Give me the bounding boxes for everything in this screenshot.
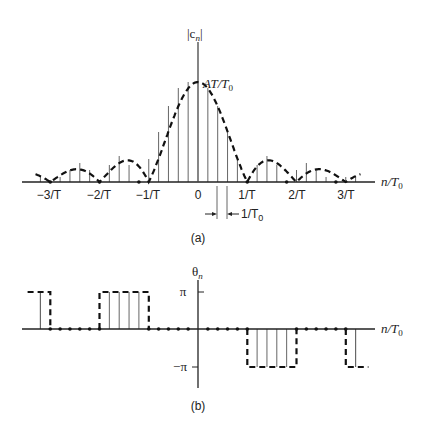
x-tick-labels: −3/T −2/T −1/T 0 1/T 2/T 3/T	[37, 188, 356, 202]
figure-b: θn π −π n/T0 (b)	[22, 264, 403, 413]
theta-label: θn	[192, 264, 203, 281]
tick-zero: 0	[195, 188, 202, 202]
tick-neg1: −1/T	[136, 188, 161, 202]
tick-neg3: −3/T	[37, 188, 62, 202]
figure-a: |cn| AT/T0 n/T0 −3/T −2/T −1/T 0 1/T 2/T…	[22, 26, 403, 245]
tick-pos1: 1/T	[238, 188, 256, 202]
neg-pi-label: −π	[173, 359, 187, 374]
x-axis-label-b: n/T0	[381, 321, 403, 338]
caption-b: (b)	[191, 399, 206, 413]
caption-a: (a)	[191, 231, 206, 245]
figure-canvas: |cn| AT/T0 n/T0 −3/T −2/T −1/T 0 1/T 2/T…	[0, 0, 426, 435]
tick-neg2: −2/T	[87, 188, 112, 202]
pi-label: π	[180, 284, 187, 299]
tick-pos2: 2/T	[288, 188, 306, 202]
peak-label: AT/T0	[202, 76, 234, 93]
y-axis-label: |cn|	[187, 26, 202, 43]
spacing-label: 1/T0	[241, 207, 263, 223]
x-axis-label: n/T0	[381, 174, 403, 191]
tick-pos3: 3/T	[337, 188, 355, 202]
